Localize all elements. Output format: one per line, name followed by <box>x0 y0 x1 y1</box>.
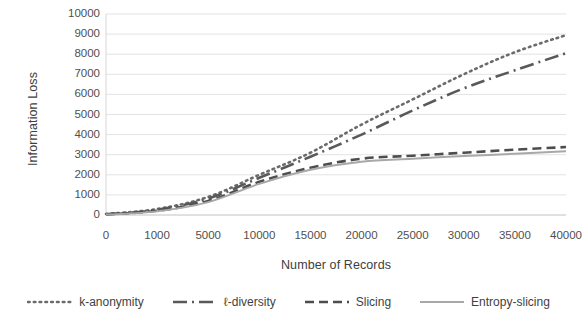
x-axis-tick-label: 1000 <box>144 229 170 241</box>
legend-label: Entropy-slicing <box>471 295 550 309</box>
x-axis-tick-label: 10000 <box>243 229 275 241</box>
x-axis-tick-label: 5000 <box>195 229 221 241</box>
dashed-line-swatch <box>304 296 350 308</box>
solid-line-swatch <box>419 296 465 308</box>
dotted-line-swatch <box>27 296 73 308</box>
legend-item[interactable]: k-anonymity <box>27 295 144 309</box>
legend-label: Slicing <box>356 295 391 309</box>
legend-item[interactable]: Entropy-slicing <box>419 295 550 309</box>
legend-item[interactable]: ℓ-diversity <box>172 295 276 309</box>
legend-item[interactable]: Slicing <box>304 295 391 309</box>
dash-dot-line-swatch <box>172 296 218 308</box>
x-axis-tick-label: 15000 <box>294 229 326 241</box>
x-axis-tick-label: 30000 <box>448 229 480 241</box>
x-axis-tick-label: 20000 <box>346 229 378 241</box>
x-axis-title: Number of Records <box>106 258 566 272</box>
legend-label: ℓ-diversity <box>224 295 276 309</box>
x-axis-tick-label: 35000 <box>499 229 531 241</box>
legend-label: k-anonymity <box>79 295 144 309</box>
chart-legend: k-anonymityℓ-diversitySlicingEntropy-sli… <box>0 288 577 316</box>
x-axis-tick-label: 40000 <box>550 229 582 241</box>
x-axis-tick-label: 0 <box>103 229 109 241</box>
x-axis-tick-label: 25000 <box>397 229 429 241</box>
